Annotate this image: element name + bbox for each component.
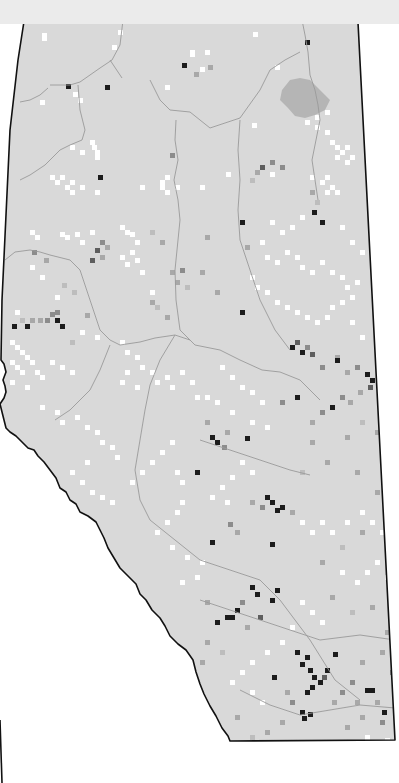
density-cell	[105, 85, 110, 90]
empty-cell	[95, 430, 100, 435]
empty-cell	[335, 145, 340, 150]
empty-cell	[80, 330, 85, 335]
density-cell	[200, 270, 205, 275]
empty-cell	[90, 490, 95, 495]
empty-cell	[220, 485, 225, 490]
empty-cell	[65, 235, 70, 240]
density-cell	[182, 63, 187, 68]
empty-cell	[40, 275, 45, 280]
empty-cell	[226, 172, 231, 177]
density-cell	[340, 545, 345, 550]
density-cell	[100, 240, 105, 245]
density-cell	[285, 690, 290, 695]
empty-cell	[165, 190, 170, 195]
density-cell	[290, 345, 295, 350]
density-cell	[295, 340, 300, 345]
alberta-map	[0, 0, 399, 783]
density-cell	[272, 675, 277, 680]
empty-cell	[112, 45, 117, 50]
empty-cell	[73, 92, 78, 97]
empty-cell	[370, 520, 375, 525]
empty-cell	[205, 50, 210, 55]
density-cell	[295, 395, 300, 400]
density-cell	[255, 170, 260, 175]
density-cell	[60, 324, 65, 329]
density-cell	[25, 324, 30, 329]
empty-cell	[215, 400, 220, 405]
density-cell	[280, 505, 285, 510]
density-cell	[200, 660, 205, 665]
empty-cell	[155, 380, 160, 385]
density-cell	[205, 420, 210, 425]
density-cell	[365, 688, 370, 693]
density-cell	[318, 680, 323, 685]
empty-cell	[250, 420, 255, 425]
density-cell	[315, 200, 320, 205]
empty-cell	[365, 735, 370, 740]
density-cell	[70, 340, 75, 345]
empty-cell	[165, 375, 170, 380]
empty-cell	[210, 495, 215, 500]
empty-cell	[70, 470, 75, 475]
density-cell	[245, 245, 250, 250]
density-cell	[270, 598, 275, 603]
density-cell	[160, 185, 165, 190]
density-cell	[382, 710, 387, 715]
empty-cell	[250, 470, 255, 475]
empty-cell	[330, 270, 335, 275]
density-cell	[305, 345, 310, 350]
density-cell	[335, 358, 340, 363]
empty-cell	[160, 180, 165, 185]
empty-cell	[75, 232, 80, 237]
empty-cell	[155, 530, 160, 535]
empty-cell	[165, 85, 170, 90]
empty-cell	[340, 225, 345, 230]
density-cell	[245, 436, 250, 441]
density-cell	[12, 324, 17, 329]
empty-cell	[315, 320, 320, 325]
density-cell	[330, 595, 335, 600]
empty-cell	[150, 460, 155, 465]
density-cell	[95, 150, 100, 155]
empty-cell	[260, 400, 265, 405]
empty-cell	[25, 355, 30, 360]
empty-cell	[330, 305, 335, 310]
empty-cell	[135, 355, 140, 360]
density-cell	[275, 588, 280, 593]
density-cell	[370, 688, 375, 693]
empty-cell	[285, 250, 290, 255]
empty-cell	[345, 160, 350, 165]
empty-cell	[275, 300, 280, 305]
empty-cell	[120, 255, 125, 260]
empty-cell	[135, 258, 140, 263]
empty-cell	[355, 280, 360, 285]
density-cell	[215, 620, 220, 625]
density-cell	[55, 310, 60, 315]
empty-cell	[110, 445, 115, 450]
empty-cell	[65, 185, 70, 190]
density-cell	[215, 290, 220, 295]
density-cell	[150, 230, 155, 235]
density-cell	[355, 365, 360, 370]
density-cell	[105, 245, 110, 250]
empty-cell	[320, 260, 325, 265]
density-cell	[308, 668, 313, 673]
density-cell	[270, 500, 275, 505]
empty-cell	[95, 155, 100, 160]
density-cell	[62, 283, 67, 288]
empty-cell	[90, 140, 95, 145]
empty-cell	[130, 232, 135, 237]
empty-cell	[300, 215, 305, 220]
empty-cell	[55, 410, 60, 415]
empty-cell	[80, 150, 85, 155]
empty-cell	[320, 520, 325, 525]
empty-cell	[345, 285, 350, 290]
empty-cell	[10, 340, 15, 345]
density-cell	[170, 270, 175, 275]
empty-cell	[40, 405, 45, 410]
empty-cell	[70, 370, 75, 375]
empty-cell	[252, 123, 257, 128]
density-cell	[332, 700, 337, 705]
density-cell	[355, 700, 360, 705]
empty-cell	[265, 650, 270, 655]
